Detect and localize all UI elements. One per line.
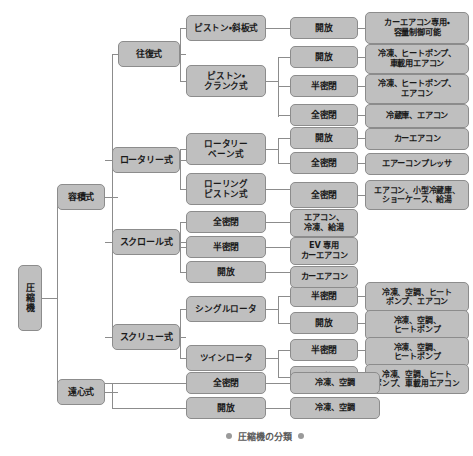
tree-connector <box>105 383 112 384</box>
tree-connector <box>278 323 290 324</box>
node-l3-screw: スクリュー式 <box>112 324 180 350</box>
node-app-vane-hermetic: エアーコンプレッサ <box>365 153 469 175</box>
tree-connector <box>266 408 290 409</box>
node-app-cr-hermetic: 冷蔵庫、エアコン <box>365 104 469 128</box>
tree-connector <box>278 86 290 87</box>
node-l5-rolling-hermetic: 全密閉 <box>290 182 358 208</box>
compressor-classification-diagram: 圧縮機容積式遠心式往復式ロータリー式スクロール式スクリュー式ピストン・斜板式ピス… <box>0 0 473 456</box>
tree-connector <box>266 358 278 359</box>
node-app-rolling: エアコン、小型冷蔵庫、 ショーケース、給湯 <box>365 180 469 210</box>
node-app-tr-semi: 冷凍、空調、 ヒートポンプ <box>365 337 469 367</box>
node-l4-piston-swash: ピストン・斜板式 <box>186 15 266 41</box>
node-app-scroll-open: カーエアコン <box>290 266 358 288</box>
node-l5-vane-hermetic: 全密閉 <box>290 152 358 174</box>
tree-connector <box>278 296 290 297</box>
node-l5-sr-semi: 半密閉 <box>290 285 358 307</box>
node-app-tr-open: 冷凍、空調、ヒート ポンプ、車載用エアコン <box>365 364 469 394</box>
tree-connector <box>278 163 290 164</box>
node-app-scroll-hermetic: エアコン、 冷凍、給湯 <box>290 209 358 237</box>
node-app-vane-open: カーエアコン <box>365 128 469 150</box>
tree-connector <box>266 28 290 29</box>
node-l4-rotary-vane: ロータリー ベーン式 <box>186 133 266 165</box>
tree-connector <box>266 222 290 223</box>
tree-connector <box>42 298 57 299</box>
tree-connector <box>358 28 365 29</box>
node-l5-cr-semi: 半密閉 <box>290 75 358 97</box>
node-l5-cr-hermetic: 全密閉 <box>290 104 358 126</box>
tree-connector <box>278 138 279 163</box>
tree-connector <box>278 296 279 323</box>
tree-connector <box>57 197 58 392</box>
tree-connector <box>266 383 290 384</box>
tree-connector <box>105 242 112 243</box>
tree-connector <box>358 86 365 87</box>
node-app-cr-open: 冷凍、ヒートポンプ、 車載用エアコン <box>365 44 469 74</box>
node-l4-centri-open: 開放 <box>186 397 266 419</box>
tree-connector <box>112 408 186 409</box>
tree-connector <box>278 115 290 116</box>
tree-connector <box>358 163 365 164</box>
bullet-dot-left <box>226 433 232 439</box>
tree-connector <box>112 54 113 337</box>
node-l2-positive: 容積式 <box>57 184 105 210</box>
tree-connector <box>266 149 278 150</box>
node-root: 圧縮機 <box>18 265 42 331</box>
tree-connector <box>266 189 290 190</box>
tree-connector <box>358 115 365 116</box>
node-l5-vane-open: 開放 <box>290 127 358 149</box>
node-app-cr-semi: 冷凍、ヒートポンプ、 エアコン <box>365 74 469 104</box>
node-l5-sr-open: 開放 <box>290 312 358 334</box>
diagram-caption: 圧縮機の分類 <box>185 428 345 444</box>
tree-connector <box>266 272 290 273</box>
node-l4-centri-hermetic: 全密閉 <box>186 372 266 394</box>
tree-connector <box>180 309 181 358</box>
node-l4-piston-crank: ピストン・ クランク式 <box>186 65 266 97</box>
tree-connector <box>112 383 113 408</box>
tree-connector <box>278 138 290 139</box>
node-l5-cr-open: 開放 <box>290 46 358 68</box>
node-l5-sw-open: 開放 <box>290 17 358 39</box>
bullet-dot-right <box>298 433 304 439</box>
tree-connector <box>358 323 365 324</box>
tree-connector <box>112 383 186 384</box>
tree-connector <box>278 57 279 117</box>
node-app-scroll-semi: EV 専用 カーエアコン <box>290 237 358 265</box>
node-l4-twin-rotor: ツインロータ <box>186 345 266 371</box>
tree-connector <box>358 57 365 58</box>
node-l5-tr-semi: 半密閉 <box>290 339 358 361</box>
node-app-centri-open: 冷凍、空調 <box>290 397 380 419</box>
tree-connector <box>180 28 181 81</box>
node-l4-scroll-open: 開放 <box>186 261 266 283</box>
node-l3-rotary: ロータリー式 <box>112 147 180 173</box>
tree-connector <box>358 195 365 196</box>
node-app-sr-open: 冷凍、空調、 ヒートポンプ <box>365 310 469 340</box>
tree-connector <box>105 337 112 338</box>
tree-connector <box>266 247 290 248</box>
tree-connector <box>180 149 181 189</box>
tree-connector <box>358 296 365 297</box>
node-l4-scroll-semi: 半密閉 <box>186 236 266 258</box>
node-l3-scroll: スクロール式 <box>112 229 180 255</box>
tree-connector <box>278 377 290 378</box>
tree-connector <box>266 309 278 310</box>
tree-connector <box>278 350 279 377</box>
node-app-sw-open: カーエアコン専用・ 容量制御可能 <box>365 12 469 44</box>
node-l4-scroll-hermetic: 全密閉 <box>186 211 266 233</box>
caption-label: 圧縮機の分類 <box>238 430 292 443</box>
tree-connector <box>278 57 290 58</box>
tree-connector <box>278 350 290 351</box>
node-l2-centrifugal: 遠心式 <box>57 379 105 405</box>
tree-connector <box>358 350 365 351</box>
tree-connector <box>358 138 365 139</box>
node-l3-recip: 往復式 <box>118 41 180 67</box>
node-app-centri-hermetic: 冷凍、空調 <box>290 372 380 394</box>
node-l4-rolling-piston: ローリング ピストン式 <box>186 173 266 205</box>
node-l4-single-rotor: シングルロータ <box>186 296 266 322</box>
tree-connector <box>266 81 278 82</box>
node-app-sr-semi: 冷凍、空調、ヒート ポンプ、エアコン <box>365 282 469 312</box>
tree-connector <box>105 160 112 161</box>
